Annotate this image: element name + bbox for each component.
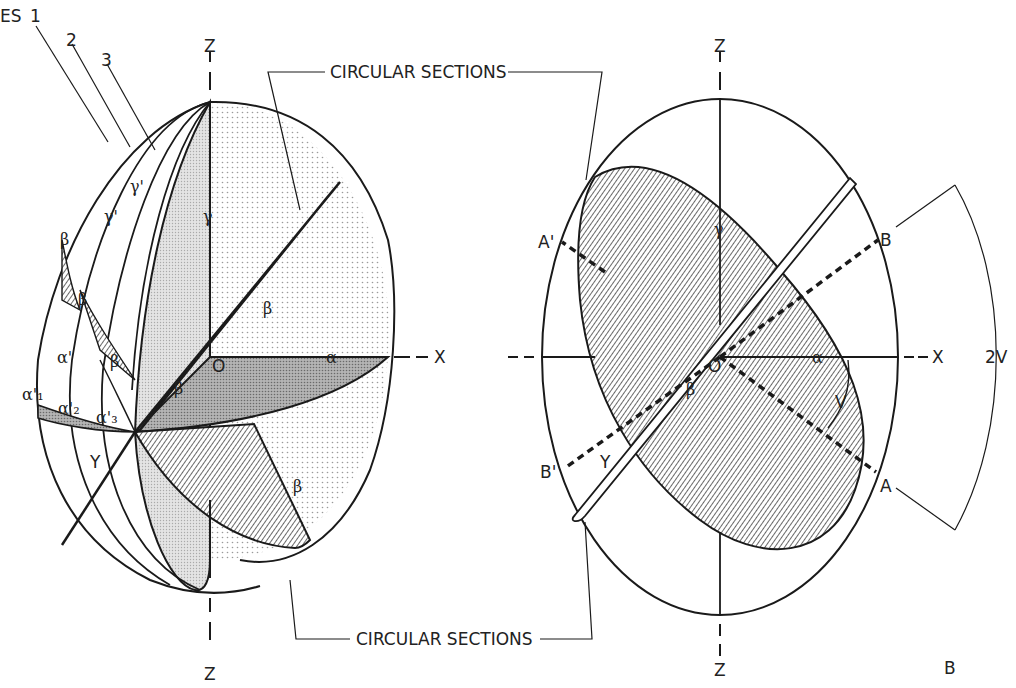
label-z-top-right: Z — [714, 36, 726, 56]
label-number-2: 2 — [66, 30, 77, 50]
label-panel-b: B — [944, 658, 956, 678]
label-point-b: B — [880, 230, 892, 250]
label-point-b-prime: B' — [540, 462, 556, 482]
label-gamma-prime-2: γ' — [104, 207, 118, 226]
label-y-left: Y — [89, 452, 101, 472]
label-alpha-prime: α' — [57, 348, 72, 367]
label-z-bottom-right: Z — [714, 660, 726, 680]
label-alpha-prime-1: α'₁ — [22, 385, 44, 404]
label-es-fragment: ES — [0, 6, 22, 26]
label-beta-3: β — [110, 352, 119, 371]
label-beta-4: β — [174, 379, 183, 398]
label-number-3: 3 — [101, 50, 112, 70]
right-indicatrix: Z Z X O Y γ α β A' B B' A V 2V B — [508, 36, 1008, 680]
label-o-right: O — [708, 356, 721, 376]
label-o-left: O — [212, 356, 225, 376]
label-beta-1: β — [60, 230, 69, 249]
label-beta-right: β — [686, 380, 695, 399]
label-angle-2v: 2V — [985, 347, 1008, 367]
label-number-1: 1 — [30, 6, 41, 26]
label-alpha-left: α — [326, 348, 337, 367]
label-gamma-axis-left: γ — [203, 207, 213, 226]
yz-section — [135, 102, 210, 590]
label-angle-v: V — [835, 392, 847, 412]
callout-circular-sections-bottom: CIRCULAR SECTIONS — [356, 629, 533, 649]
label-beta-6: β — [293, 477, 302, 496]
label-gamma-prime-1: γ' — [130, 177, 144, 196]
label-point-a-prime: A' — [538, 232, 554, 252]
label-beta-5: β — [263, 299, 272, 318]
label-alpha-prime-2: α'₂ — [58, 399, 80, 418]
label-point-a: A — [880, 476, 892, 496]
left-indicatrix: ES 1 2 3 Z Z X O Y γ γ' γ' α α' α'₁ α'₂ … — [0, 6, 533, 684]
label-y-right: Y — [599, 452, 611, 472]
label-alpha-right: α — [812, 348, 823, 367]
label-alpha-prime-3: α'₃ — [96, 408, 118, 427]
label-gamma-right: γ — [714, 220, 724, 239]
label-x-left: X — [434, 347, 446, 367]
alpha-prime-band — [38, 405, 135, 432]
label-z-top-left: Z — [204, 36, 216, 56]
label-x-right: X — [932, 347, 944, 367]
label-z-bottom-left: Z — [204, 664, 216, 684]
callout-circular-sections-top: CIRCULAR SECTIONS — [330, 62, 507, 82]
label-beta-2: β — [78, 290, 87, 309]
indicatrix-figure: ES 1 2 3 Z Z X O Y γ γ' γ' α α' α'₁ α'₂ … — [0, 0, 1016, 688]
